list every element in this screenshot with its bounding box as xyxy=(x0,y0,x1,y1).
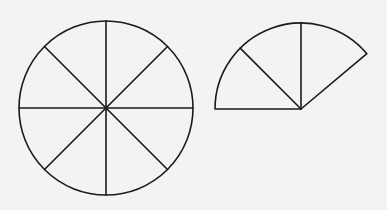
sector-outline xyxy=(215,23,367,109)
partial-sector xyxy=(215,23,367,109)
divided-circle xyxy=(19,21,193,195)
geometry-figure xyxy=(0,0,387,210)
sector-radius-line xyxy=(240,48,301,109)
